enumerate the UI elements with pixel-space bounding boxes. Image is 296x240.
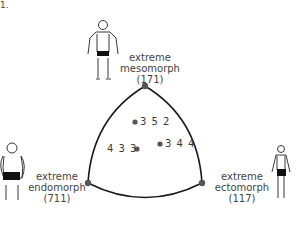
label-code: (171) [118, 74, 182, 85]
label-line2: endomorph [26, 182, 88, 193]
label-extreme-endomorph: extreme endomorph (711) [26, 171, 88, 204]
label-code: (711) [26, 193, 88, 204]
point-dot-352 [132, 119, 137, 124]
label-line1: extreme [118, 52, 182, 63]
point-label-344: 3 4 4 [165, 138, 195, 149]
ectomorph-figure-icon [272, 146, 290, 199]
vertex-dot-ectomorph [199, 180, 205, 186]
label-line2: mesomorph [118, 63, 182, 74]
point-label-433: 4 3 3 [107, 143, 137, 154]
label-extreme-ectomorph: extreme ectomorph (117) [212, 171, 272, 204]
label-line2: ectomorph [212, 182, 272, 193]
point-dot-344 [157, 141, 162, 146]
point-label-352: 3 5 2 [140, 116, 170, 127]
mesomorph-figure-icon [88, 21, 118, 80]
label-line1: extreme [26, 171, 88, 182]
label-extreme-mesomorph: extreme mesomorph (171) [118, 52, 182, 85]
endomorph-figure-icon [1, 143, 25, 200]
label-code: (117) [212, 193, 272, 204]
label-line1: extreme [212, 171, 272, 182]
